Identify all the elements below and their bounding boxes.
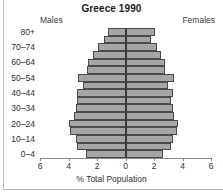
bar-male bbox=[98, 43, 125, 51]
x-axis-tick-label: 2 bbox=[95, 161, 100, 171]
x-axis-tick-label: 6 bbox=[38, 161, 43, 171]
figure-border-bottom bbox=[3, 189, 223, 190]
plot-area bbox=[40, 28, 211, 158]
bar-female bbox=[126, 36, 152, 44]
x-axis-tick-label: 2 bbox=[152, 161, 157, 171]
bar-male bbox=[77, 143, 125, 151]
bar-male bbox=[93, 51, 126, 59]
bar-female bbox=[126, 127, 177, 135]
bar-male bbox=[77, 97, 125, 105]
bar-female bbox=[126, 43, 157, 51]
center-axis-line bbox=[125, 28, 126, 158]
y-axis-tick-label: 10–14 bbox=[11, 134, 35, 144]
y-axis-tick-label: 70–74 bbox=[11, 42, 35, 52]
bar-female bbox=[126, 28, 156, 36]
bar-male bbox=[83, 82, 126, 90]
bar-male bbox=[77, 89, 125, 97]
bar-female bbox=[126, 59, 166, 67]
y-axis-tick-label: 50–54 bbox=[11, 73, 35, 83]
bar-female bbox=[126, 51, 162, 59]
bar-male bbox=[108, 28, 125, 36]
x-axis-tick-label: 4 bbox=[180, 161, 185, 171]
bar-female bbox=[126, 89, 173, 97]
x-axis-title: % Total Population bbox=[0, 174, 223, 184]
y-axis-tick-label: 20–24 bbox=[11, 119, 35, 129]
y-axis-tick-label: 40–44 bbox=[11, 88, 35, 98]
males-side-label: Males bbox=[40, 15, 63, 25]
females-side-label: Females bbox=[182, 15, 215, 25]
bar-female bbox=[126, 120, 179, 128]
bar-male bbox=[76, 104, 126, 112]
bar-male bbox=[70, 127, 126, 135]
bar-female bbox=[126, 82, 169, 90]
x-axis-tick-label: 6 bbox=[209, 161, 214, 171]
y-axis-tick-label: 0–4 bbox=[21, 149, 35, 159]
bar-female bbox=[126, 135, 173, 143]
bar-male bbox=[74, 112, 125, 120]
bar-female bbox=[126, 150, 163, 158]
x-axis-tick-label: 0 bbox=[123, 161, 128, 171]
bar-female bbox=[126, 66, 166, 74]
bar-male bbox=[88, 59, 125, 67]
x-axis-tick-label: 4 bbox=[66, 161, 71, 171]
bar-female bbox=[126, 97, 172, 105]
population-pyramid-figure: Greece 1990 Males Females 0–410–1420–243… bbox=[0, 0, 223, 196]
bar-male bbox=[69, 120, 126, 128]
bar-female bbox=[126, 143, 172, 151]
bar-female bbox=[126, 74, 174, 82]
bar-male bbox=[87, 66, 125, 74]
bar-male bbox=[78, 74, 125, 82]
bar-female bbox=[126, 112, 174, 120]
chart-title: Greece 1990 bbox=[0, 3, 223, 14]
y-axis-tick-label: 60–64 bbox=[11, 57, 35, 67]
bar-male bbox=[104, 36, 125, 44]
y-axis-tick-label: 30–34 bbox=[11, 103, 35, 113]
bar-male bbox=[76, 135, 126, 143]
y-axis-tick-label: 80+ bbox=[21, 27, 35, 37]
y-axis-tick-labels: 0–410–1420–2430–3440–4450–5460–6470–7480… bbox=[0, 28, 38, 158]
bar-female bbox=[126, 104, 173, 112]
bar-male bbox=[86, 150, 126, 158]
